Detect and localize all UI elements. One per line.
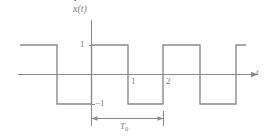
y-axis-variable-glyph: x <box>73 4 77 14</box>
period-arrowhead-right <box>158 116 164 120</box>
y-tick-label-positive-one: 1 <box>80 40 85 49</box>
x-axis-label: t <box>256 68 259 77</box>
y-axis-variable-text: x <box>73 3 77 14</box>
x-tick-label-one: 1 <box>131 77 136 86</box>
period-label: T0 <box>120 122 128 133</box>
square-wave-figure: x(t) 1 −1 1 2 t T0 <box>0 0 272 138</box>
x-tick-label-two: 2 <box>166 77 171 86</box>
dot-accent-icon <box>74 0 76 1</box>
period-arrowhead-left <box>92 116 98 120</box>
y-axis-argument-text: (t) <box>77 3 86 14</box>
y-axis-label: x(t) <box>73 4 87 14</box>
y-tick-label-negative-one: −1 <box>95 99 105 108</box>
period-subscript-text: 0 <box>125 125 128 132</box>
plot-canvas <box>0 0 272 138</box>
